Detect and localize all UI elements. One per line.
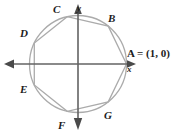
geometry-figure: C B D E F G A = (1, 0) y x xyxy=(0,0,181,138)
vertex-label-f: F xyxy=(58,120,65,131)
vertex-label-a-coordinate: A = (1, 0) xyxy=(127,48,170,59)
x-axis-label: x xyxy=(127,65,132,74)
vertex-label-e: E xyxy=(20,84,27,95)
vertex-label-b: B xyxy=(108,13,115,24)
vertex-label-c: C xyxy=(53,4,60,15)
vertex-label-d: D xyxy=(20,28,28,39)
x-axis-left-arrowhead xyxy=(4,60,14,69)
figure-canvas xyxy=(0,0,181,138)
vertex-label-g: G xyxy=(104,110,112,121)
y-axis-bottom-arrowhead xyxy=(74,118,82,130)
y-axis-label: y xyxy=(77,4,81,13)
